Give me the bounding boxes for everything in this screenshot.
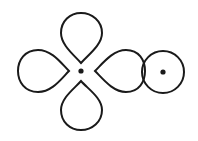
d-orbital-nucleus-dot	[78, 68, 83, 73]
s-orbital-nucleus-dot	[160, 69, 165, 74]
d-orbital-lobe-bottom	[61, 81, 102, 130]
d-orbital-lobe-left	[18, 50, 69, 92]
d-orbital-lobe-top	[61, 13, 102, 63]
orbital-overlap-diagram	[0, 0, 198, 141]
d-orbital-lobe-right	[95, 50, 145, 92]
